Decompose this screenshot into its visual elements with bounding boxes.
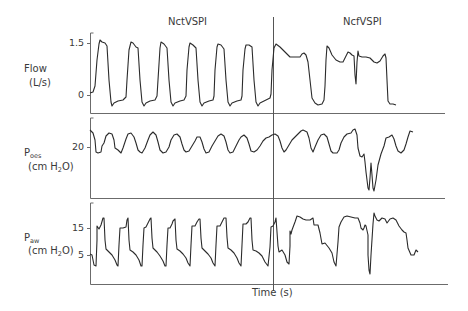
traces [90,40,418,274]
paw-unit-a: (cm H [28,245,58,256]
flow-trace [90,40,396,106]
flow-tick-label-bottom: 0 [60,89,84,100]
section-title-ncfvspi: NcfVSPI [343,16,382,27]
poes-unit-b: O) [62,161,74,172]
paw-ylabel: Paw [24,232,39,245]
poes-ylabel: Poes [24,147,41,160]
poes-trace [90,129,413,191]
flow-yunit: (L/s) [29,77,51,88]
paw-trace [90,213,418,274]
flow-y-axis [91,33,446,114]
section-title-nctvspi: NctVSPI [168,16,207,27]
paw-ylabel-sub: aw [30,237,39,245]
flow-ylabel: Flow [24,63,47,74]
poes-ylabel-sub: oes [30,152,41,160]
paw-tick-label-top: 15 [60,222,84,233]
paw-y-axis [91,203,449,285]
axes [87,17,448,291]
flow-tick-label-top: 1.5 [60,37,84,48]
poes-y-axis [91,118,446,199]
poes-unit-a: (cm H [28,161,58,172]
poes-yunit: (cm H2O) [28,161,74,174]
paw-tick-label-bottom: 5 [60,249,84,260]
poes-tick-label: 20 [60,141,84,152]
x-axis-label: Time (s) [252,287,293,298]
